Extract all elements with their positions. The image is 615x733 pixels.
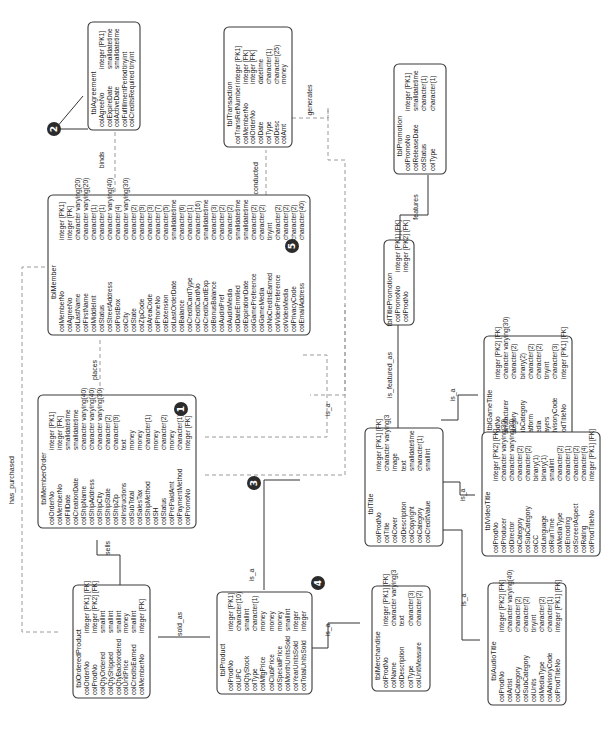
column-name: colCreditValue	[424, 500, 431, 543]
column-type: binary(1)	[532, 455, 540, 481]
column-type: integer [PK1] [FK]	[588, 429, 596, 481]
column-name: colLastName	[74, 293, 81, 332]
column-name: colPromoNo	[184, 488, 191, 525]
column-type: integer [FK]	[56, 416, 64, 450]
column-type: integer [FK]	[66, 206, 74, 240]
entity-tblProduct[interactable]: tblProductcolProdNointeger [PK1]colUPCch…	[217, 592, 312, 694]
column-type: character(1)	[251, 595, 259, 631]
column-type: integer [PK1]	[48, 412, 56, 450]
column-name: colQtyBackordered	[115, 639, 123, 695]
entity-title: tblMemberOrder	[39, 452, 48, 505]
column-type: character(3)	[210, 204, 218, 240]
relationship-label: has_purchased	[8, 456, 16, 504]
column-name: colStreetAddress	[106, 281, 113, 332]
entity-tblMerchandise[interactable]: tblMerchandisecolProdNointeger [PK1] [FK…	[372, 569, 430, 691]
entity-title: tblMember	[49, 264, 58, 299]
entity-title: tblAgreement	[89, 72, 98, 115]
column-type: character varying(30)	[122, 178, 130, 240]
column-type: tinyint	[128, 52, 136, 69]
entity-tblTitle[interactable]: tblTitlecolProdNointeger [PK1] [FK]colTi…	[365, 414, 443, 546]
entity-tblMember[interactable]: tblMembercolMemberNointeger [PK1]colAgre…	[48, 178, 310, 335]
column-type: smalldatetime	[412, 70, 419, 111]
entities: tblAgreementcolAgreeNointeger [PK1]colEx…	[38, 22, 600, 705]
entity-title: tblTitle	[366, 494, 375, 515]
column-name: colOrderNo	[48, 491, 55, 525]
column-type: character(1)	[186, 204, 194, 240]
entity-tblTransaction[interactable]: tblTransactioncolTransRefNumberinteger […	[224, 27, 292, 147]
entity-tblAudioTitle[interactable]: tblAudioTitlecolProdNointeger [PK2] [FK]…	[488, 570, 566, 705]
column-name: colMediaType	[538, 661, 546, 702]
svg-text:2: 2	[49, 126, 59, 132]
badge-3: 3	[247, 476, 261, 490]
column-name: colPrivacyCode	[290, 286, 298, 332]
column-type: money	[259, 611, 267, 631]
column-name: colQtyOrdered	[99, 652, 107, 695]
entity-title: tblTransaction	[225, 82, 234, 127]
column-type: character(1)	[564, 445, 572, 481]
column-name: colStatus	[160, 497, 167, 525]
column-name: colEncoding	[564, 517, 572, 553]
column-type: money	[152, 430, 160, 450]
column-type: integer [PK1]	[58, 202, 66, 240]
column-type: character(2)	[514, 596, 522, 632]
column-type: character(2)	[510, 343, 518, 379]
column-type: smallint	[115, 610, 122, 633]
entity-title: tblVideoTitle	[483, 491, 492, 530]
column-type: character(2)	[527, 343, 535, 379]
column-type: character(1)	[416, 435, 424, 471]
column-name: colCreditsEarned	[130, 644, 137, 695]
column-name: colVideoPreference	[274, 274, 281, 332]
column-name: colShipCity	[96, 491, 104, 525]
column-type: smallint	[99, 610, 106, 633]
column-name: colExpirationDate	[242, 280, 250, 332]
column-name: colCategory	[516, 517, 524, 553]
column-type: character varying(3	[383, 414, 391, 471]
column-name: colName	[390, 662, 397, 688]
column-name: colPrePaidAmt	[168, 481, 175, 525]
entity-tblPromotion[interactable]: tblPromotioncolPromoNointeger [PK1]colRe…	[394, 64, 446, 174]
entity-title: tblAudioTitle	[489, 641, 498, 680]
column-type: character(9)	[138, 204, 146, 240]
column-type: image	[391, 453, 399, 471]
entity-tblMemberOrder[interactable]: tblMemberOrdercolOrderNointeger [PK1]col…	[38, 388, 196, 528]
column-type: integer [PK1] [FK]	[83, 581, 91, 633]
column-name: colInstructions	[120, 482, 127, 525]
svg-text:1: 1	[176, 406, 186, 412]
column-name: colPromoNo	[404, 134, 411, 171]
entity-tblOrderedProduct[interactable]: tblOrderedProductcolOrderNointeger [PK1]…	[73, 581, 150, 698]
column-type: character(1)	[429, 75, 437, 111]
column-type: character(1)	[144, 414, 152, 450]
entity-tblAgreement[interactable]: tblAgreementcolAgreeNointeger [PK1]colEx…	[88, 22, 140, 130]
column-type: smalldatetime	[113, 28, 120, 69]
column-name: colDirector	[508, 521, 515, 553]
column-name: colDate	[257, 121, 264, 144]
column-name: colProdNo	[498, 671, 505, 702]
column-name: colAudioMedia	[226, 288, 233, 332]
rel-is-a-product-title-line	[264, 480, 300, 590]
column-type: character(2)	[516, 445, 524, 481]
column-name: colTransRefNumber	[234, 84, 241, 144]
column-name: colSH	[152, 507, 159, 525]
entity-tblVideoTitle[interactable]: tblVideoTitlecolProdNointeger [PK2] [FK]…	[482, 419, 600, 556]
column-name: colType	[407, 665, 415, 688]
column-type: character(1)	[98, 204, 106, 240]
column-type: character(3)	[407, 590, 415, 626]
column-type: character varying(3	[390, 569, 398, 626]
column-name: colFirstName	[82, 293, 89, 332]
column-name: colSubCategory	[522, 654, 530, 702]
entity-title: tblOrderedProduct	[74, 629, 83, 688]
column-name: colBonusBalance	[210, 281, 217, 332]
column-name: colFillDate	[64, 494, 71, 525]
column-name: colClubPrice	[268, 654, 275, 691]
column-type: binary(1)	[540, 455, 548, 481]
column-name: colAdvisoryCode	[546, 652, 554, 702]
column-type: character(2)	[538, 596, 546, 632]
rel-is-a-title-video-line	[441, 482, 475, 495]
rel-is-a-title-game-line	[441, 395, 478, 420]
column-type: character(2)	[104, 414, 112, 450]
relationship-label: is_a	[449, 388, 457, 401]
column-name: colPhoneNo	[154, 296, 161, 332]
column-name: colEmailAddress	[298, 282, 305, 332]
entity-tblTitlePromotion[interactable]: tblTitlePromotioncolPromoNointeger [PK1]…	[384, 220, 414, 327]
column-type: character(2)	[258, 204, 266, 240]
